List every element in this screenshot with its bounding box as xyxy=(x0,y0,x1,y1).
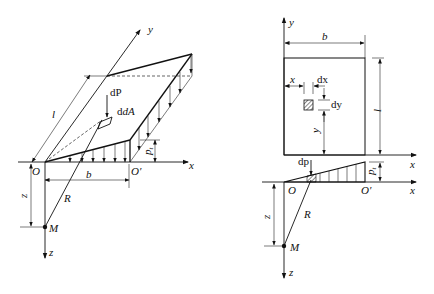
point-m-label-right: M xyxy=(289,241,300,253)
corner-label: O′ xyxy=(131,165,142,177)
z-axis-label-right: z xyxy=(288,266,294,278)
z-axis-label: z xyxy=(48,246,54,258)
diagram-canvas: y l R ddA dP xyxy=(0,0,434,294)
load-arrows-near xyxy=(70,141,125,162)
radius-line xyxy=(45,120,102,227)
y-axis-label-right: y xyxy=(288,16,294,28)
y-axis-line xyxy=(45,30,140,162)
point-m-right xyxy=(282,244,286,248)
corner-label-right: O′ xyxy=(361,184,372,196)
origin-label: O xyxy=(32,165,40,177)
x-dist-label: x xyxy=(289,73,295,85)
load-strip xyxy=(307,174,316,182)
length-label-right: l xyxy=(371,109,383,112)
y-dist-label: y xyxy=(309,128,321,134)
load-triangle xyxy=(284,162,365,182)
width-label: b xyxy=(86,168,92,180)
load-hatch-lines xyxy=(320,164,356,182)
point-m-label: M xyxy=(48,222,59,234)
dx-label: dx xyxy=(317,73,329,85)
plate-near-load-edge xyxy=(45,140,130,162)
pt-label-right: pt xyxy=(364,167,378,177)
left-figure: y l R ddA dP xyxy=(17,23,194,258)
length-dimension xyxy=(32,75,90,162)
origin-label-right: O xyxy=(288,184,296,196)
right-figure: y b l x dx dy y x xyxy=(260,16,416,278)
width-label-right: b xyxy=(322,30,328,42)
load-arrows-side xyxy=(139,56,191,150)
area-element xyxy=(98,117,112,129)
plate-right-top-edge xyxy=(130,54,192,140)
x-axis-label-right-top: x xyxy=(409,158,415,170)
diagonal-dashed xyxy=(45,120,102,162)
depth-label: z xyxy=(17,193,29,199)
x-axis-label-right-bottom: x xyxy=(409,184,415,196)
radius-label: R xyxy=(63,192,71,204)
length-label: l xyxy=(52,108,55,120)
area-element-label: ddA xyxy=(117,105,135,117)
point-load-label-right: dp xyxy=(298,155,310,167)
point-load-label: dP xyxy=(110,86,122,98)
dy-label: dy xyxy=(331,98,343,110)
area-element-right xyxy=(304,100,313,110)
depth-label-right: z xyxy=(260,214,272,220)
radius-label-right: R xyxy=(303,208,311,220)
x-axis-label: x xyxy=(188,159,194,171)
y-axis-label: y xyxy=(147,23,153,35)
point-m xyxy=(43,225,47,229)
pt-label: pt xyxy=(141,147,155,157)
